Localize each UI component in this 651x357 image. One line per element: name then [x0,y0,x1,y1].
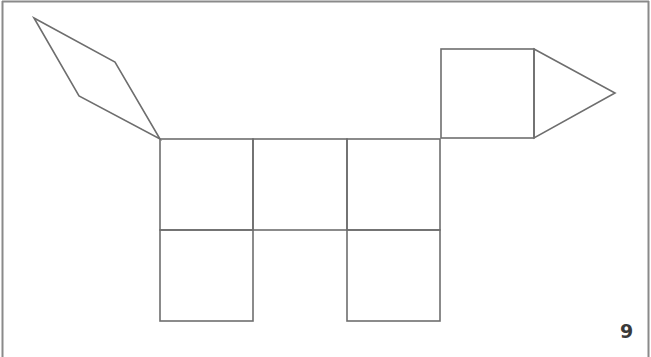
page-number: 9 [620,322,633,341]
head-square [441,49,534,138]
leg-square-left [160,230,253,321]
body-square-left [160,139,253,230]
snout-triangle [534,49,615,138]
dog-shape-diagram [0,0,651,357]
body-square-middle [253,139,347,230]
body-square-right [347,139,440,230]
tail-rhombus [34,18,160,139]
leg-square-right [347,230,440,321]
page-frame [2,1,649,357]
